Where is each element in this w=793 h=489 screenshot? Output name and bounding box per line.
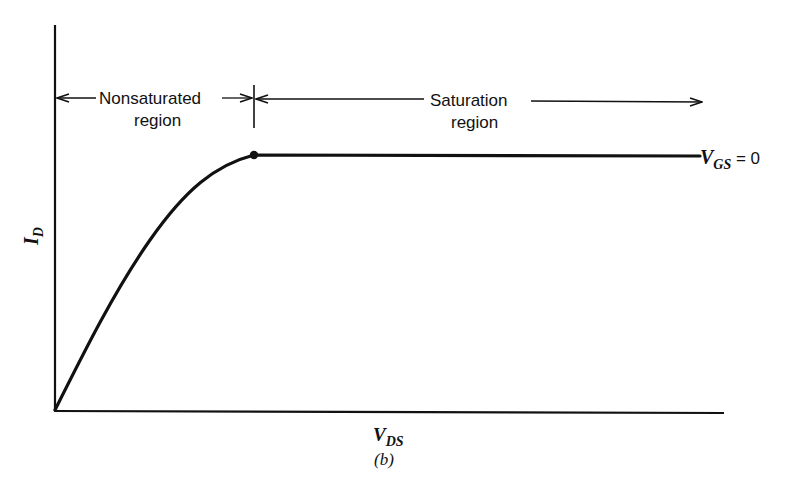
pinch-off-point (250, 151, 258, 159)
nonsaturated-label-line2: region (134, 111, 181, 130)
curve-label: VGS = 0 (700, 146, 760, 172)
fet-characteristic-diagram: Nonsaturated region Saturation region VG… (0, 0, 793, 489)
y-axis-label: ID (20, 227, 46, 246)
nonsaturated-label: Nonsaturated (99, 89, 201, 108)
x-axis (54, 411, 724, 413)
id-vds-curve (55, 155, 700, 410)
sat-arrow-right (531, 101, 702, 102)
x-axis-label: VDS (373, 424, 404, 449)
saturation-label-line2: region (451, 113, 498, 132)
figure-caption: (b) (374, 450, 394, 469)
saturation-label: Saturation (430, 91, 508, 110)
